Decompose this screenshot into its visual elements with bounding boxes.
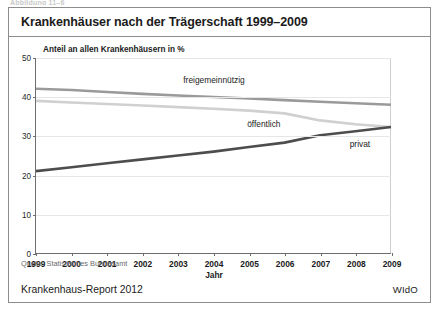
y-axis-tick-mark [33,58,36,59]
x-axis-tick-label: 2006 [276,259,295,269]
x-axis-tick-mark [392,253,393,256]
grid-line [36,136,391,137]
x-axis-tick-label: 2009 [383,259,402,269]
x-axis-tick-mark [178,253,179,256]
series-label-privat: privat [350,139,370,149]
x-axis-tick-mark [285,253,286,256]
x-axis-tick-mark [107,253,108,256]
x-axis-tick-mark [72,253,73,256]
grid-line [36,58,391,59]
y-axis-tick-label: 10 [22,210,31,219]
y-axis-tick-label: 30 [22,132,31,141]
x-axis-tick-label: 2008 [347,259,366,269]
y-axis-tick-mark [33,97,36,98]
x-axis-tick-label: 2002 [133,259,152,269]
grid-line [36,97,391,98]
x-axis-tick-mark [214,253,215,256]
grid-line [36,176,391,177]
chart-plot-area: 0102030405019992000200120022003200420052… [35,58,391,254]
y-axis-tick-label: 0 [26,250,31,259]
y-axis-tick-mark [33,136,36,137]
figure-container: Krankenhäuser nach der Trägerschaft 1999… [8,7,431,303]
figure-screenshot: Abbildung 11–6 Krankenhäuser nach der Tr… [0,0,439,319]
series-line-privat [36,127,391,171]
y-axis-tick-label: 40 [22,93,31,102]
x-axis-tick-label: 2004 [205,259,224,269]
series-label-öffentlich: öffentlich [247,119,280,129]
cut-off-caption-stub: Abbildung 11–6 [10,0,65,5]
chart-series-layer [36,58,391,253]
figure-footer: Krankenhaus-Report 2012 WIdO [9,277,430,302]
chart-source-note: Quelle: Statistisches Bundesamt [21,259,127,268]
report-name: Krankenhaus-Report 2012 [21,284,143,295]
x-axis-tick-label: 2007 [311,259,330,269]
y-axis-tick-label: 20 [22,171,31,180]
publisher-logo-text: WIdO [393,284,418,295]
x-axis-tick-mark [143,253,144,256]
y-axis-tick-mark [33,215,36,216]
x-axis-tick-mark [321,253,322,256]
x-axis-tick-label: 2005 [240,259,259,269]
grid-line [36,215,391,216]
x-axis-tick-label: 2003 [169,259,188,269]
x-axis-tick-mark [250,253,251,256]
y-axis-tick-mark [33,176,36,177]
series-label-freigemeinnützig: freigemeinnützig [183,75,244,85]
x-axis-tick-mark [356,253,357,256]
series-line-öffentlich [36,101,391,127]
y-axis-tick-label: 50 [22,54,31,63]
x-axis-tick-mark [36,253,37,256]
